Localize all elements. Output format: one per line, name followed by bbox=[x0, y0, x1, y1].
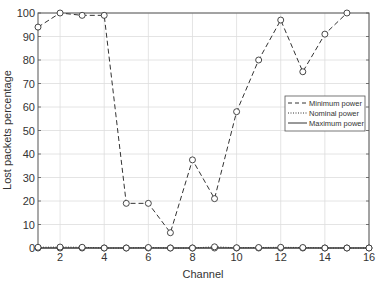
x-tick-label: 14 bbox=[319, 251, 331, 263]
data-point-marker bbox=[145, 245, 151, 251]
x-tick-label: 6 bbox=[145, 251, 151, 263]
x-axis-label: Channel bbox=[183, 268, 224, 280]
data-point-marker bbox=[234, 245, 240, 251]
legend-label-nominal: Nominal power bbox=[309, 109, 360, 118]
data-point-marker bbox=[57, 10, 63, 16]
data-point-marker bbox=[344, 10, 350, 16]
data-point-marker bbox=[79, 244, 85, 250]
y-tick-label: 10 bbox=[23, 219, 35, 231]
data-point-marker bbox=[278, 244, 284, 250]
data-point-marker bbox=[79, 12, 85, 18]
y-tick-label: 70 bbox=[23, 78, 35, 90]
data-point-marker bbox=[366, 245, 372, 251]
y-tick-label: 50 bbox=[23, 125, 35, 137]
data-point-marker bbox=[167, 245, 173, 251]
data-point-marker bbox=[35, 244, 41, 250]
x-tick-label: 2 bbox=[57, 251, 63, 263]
x-tick-label: 8 bbox=[189, 251, 195, 263]
y-tick-label: 30 bbox=[23, 172, 35, 184]
data-point-marker bbox=[57, 244, 63, 250]
legend-label-minimum: Minimum power bbox=[309, 99, 362, 108]
data-point-marker bbox=[322, 245, 328, 251]
data-point-marker bbox=[278, 17, 284, 23]
data-point-marker bbox=[344, 245, 350, 251]
data-point-marker bbox=[123, 245, 129, 251]
data-point-marker bbox=[145, 200, 151, 206]
data-point-marker bbox=[189, 157, 195, 163]
line-chart: 2468101214160102030405060708090100 Chann… bbox=[0, 0, 379, 285]
data-point-marker bbox=[167, 230, 173, 236]
y-tick-label: 90 bbox=[23, 31, 35, 43]
legend: Minimum power Nominal power Maximum powe… bbox=[285, 96, 365, 131]
data-point-marker bbox=[189, 245, 195, 251]
data-point-marker bbox=[256, 245, 262, 251]
data-point-marker bbox=[212, 244, 218, 250]
data-point-marker bbox=[256, 57, 262, 63]
x-tick-label: 12 bbox=[275, 251, 287, 263]
y-tick-label: 100 bbox=[17, 7, 35, 19]
data-point-marker bbox=[35, 24, 41, 30]
y-tick-label: 40 bbox=[23, 148, 35, 160]
data-point-marker bbox=[322, 31, 328, 37]
data-point-marker bbox=[212, 196, 218, 202]
data-point-marker bbox=[300, 245, 306, 251]
x-tick-label: 16 bbox=[363, 251, 375, 263]
x-tick-label: 4 bbox=[101, 251, 107, 263]
y-axis-label: Lost packets percentage bbox=[1, 70, 13, 190]
data-point-marker bbox=[300, 69, 306, 75]
data-point-marker bbox=[101, 245, 107, 251]
y-tick-label: 0 bbox=[29, 242, 35, 254]
data-point-marker bbox=[234, 109, 240, 115]
legend-label-maximum: Maximum power bbox=[309, 119, 365, 128]
y-tick-label: 80 bbox=[23, 54, 35, 66]
x-tick-label: 10 bbox=[230, 251, 242, 263]
data-point-marker bbox=[101, 12, 107, 18]
data-point-marker bbox=[123, 200, 129, 206]
y-tick-label: 60 bbox=[23, 101, 35, 113]
y-tick-label: 20 bbox=[23, 195, 35, 207]
